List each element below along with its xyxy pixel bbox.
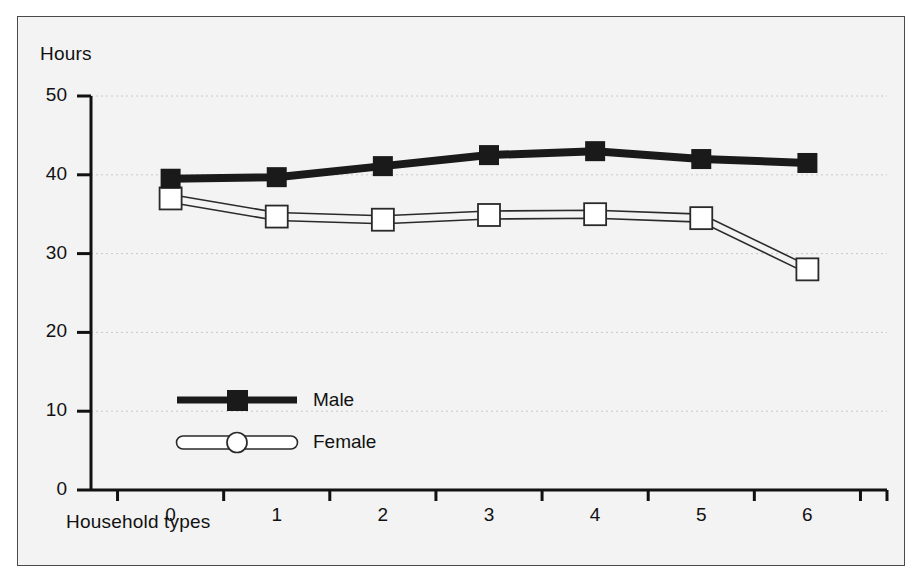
x-tick-label: 5 — [686, 504, 716, 526]
y-tick-label: 10 — [31, 399, 67, 421]
x-axis-title: Household types — [66, 511, 211, 533]
y-tick-label: 20 — [31, 320, 67, 342]
x-tick-label: 6 — [792, 504, 822, 526]
chart-svg — [18, 17, 906, 567]
y-tick-label: 40 — [31, 163, 67, 185]
legend-label-female: Female — [313, 431, 376, 453]
filled-square-icon — [173, 385, 305, 415]
open-circle-icon — [173, 427, 305, 457]
plot-area — [18, 17, 906, 567]
chart-figure-frame: Hours 50403020100 0123456 Male Fem — [17, 16, 905, 566]
legend-item-male: Male — [173, 385, 433, 427]
x-tick-label: 4 — [580, 504, 610, 526]
y-tick-label: 50 — [31, 84, 67, 106]
y-tick-label: 30 — [31, 242, 67, 264]
series-male — [161, 141, 818, 189]
legend-item-female: Female — [173, 427, 433, 469]
y-tick-label: 0 — [31, 478, 67, 500]
x-tick-label: 2 — [368, 504, 398, 526]
x-tick-label: 3 — [474, 504, 504, 526]
chart-legend: Male Female — [173, 385, 433, 469]
x-axis-ticks — [118, 490, 861, 501]
x-tick-label: 1 — [262, 504, 292, 526]
y-axis-ticks — [77, 96, 91, 490]
series-female — [160, 187, 819, 280]
legend-label-male: Male — [313, 389, 354, 411]
